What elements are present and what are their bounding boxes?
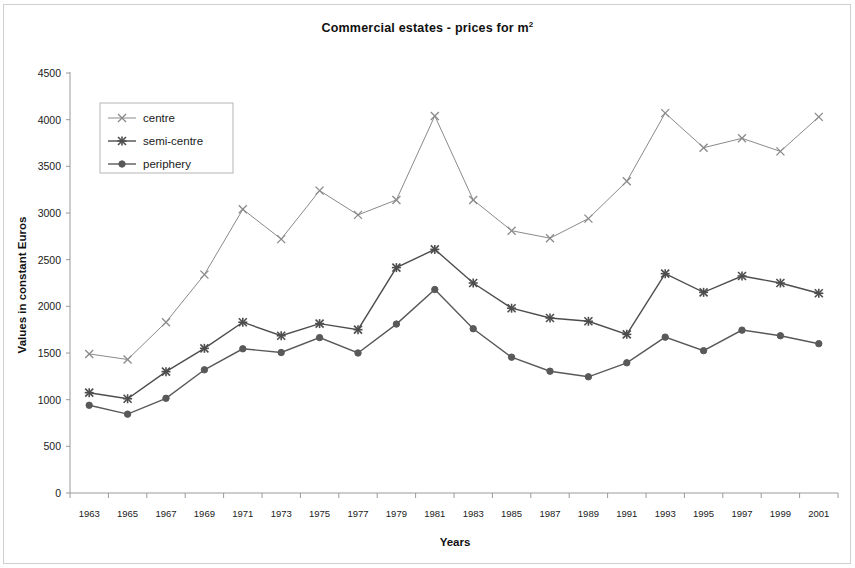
data-point-marker <box>585 374 591 380</box>
x-axis-tick-label: 1967 <box>155 508 176 519</box>
series-line <box>89 249 819 398</box>
y-axis-tick-label: 1000 <box>38 394 62 406</box>
data-point-marker <box>661 269 670 278</box>
data-point-marker <box>622 330 631 339</box>
y-axis-tick-label: 1500 <box>38 347 62 359</box>
data-point-marker <box>547 368 553 374</box>
data-point-marker <box>431 112 439 120</box>
y-axis-tick-label: 4000 <box>38 114 62 126</box>
y-axis-tick-label: 0 <box>55 487 61 499</box>
x-axis-tick-label: 1993 <box>655 508 676 519</box>
data-point-marker <box>738 272 747 281</box>
x-axis-tick-label: 1979 <box>386 508 407 519</box>
chart-legend: centresemi-centreperiphery <box>100 103 233 173</box>
data-point-marker <box>119 161 125 167</box>
data-point-marker <box>814 289 823 298</box>
data-point-marker <box>700 144 708 152</box>
y-axis-tick-label: 2000 <box>38 300 62 312</box>
data-point-marker <box>508 227 516 235</box>
data-point-marker <box>278 349 284 355</box>
y-axis-tick-label: 500 <box>43 440 61 452</box>
data-point-marker <box>738 134 746 142</box>
series-semi-centre <box>85 245 824 403</box>
data-point-marker <box>546 314 555 323</box>
data-point-marker <box>470 326 476 332</box>
data-point-marker <box>584 317 593 326</box>
data-point-marker <box>124 411 130 417</box>
data-point-marker <box>507 304 516 313</box>
data-point-marker <box>392 196 400 204</box>
data-point-marker <box>162 318 170 326</box>
legend-label: periphery <box>143 158 191 170</box>
y-axis-tick-label: 4500 <box>38 67 62 79</box>
x-axis-tick-label: 1995 <box>693 508 714 519</box>
data-point-marker <box>661 109 669 117</box>
legend-label: centre <box>143 112 175 124</box>
x-axis-tick-label: 1973 <box>271 508 292 519</box>
data-point-marker <box>392 263 401 272</box>
data-point-marker <box>85 388 94 397</box>
data-point-marker <box>584 215 592 223</box>
data-point-marker <box>200 344 209 353</box>
y-axis-title: Values in constant Euros <box>16 217 28 354</box>
data-point-marker <box>393 321 399 327</box>
y-axis-tick-label: 3500 <box>38 160 62 172</box>
data-point-marker <box>623 177 631 185</box>
chart-plot-area: 050010001500200025003000350040004500 196… <box>0 0 855 568</box>
data-point-marker <box>118 137 127 146</box>
axis-titles-layer: Values in constant Euros Years <box>16 217 470 548</box>
series-periphery <box>86 286 822 417</box>
data-point-marker <box>355 350 361 356</box>
x-axis-tick-label: 1987 <box>539 508 560 519</box>
data-point-marker <box>700 347 706 353</box>
data-point-marker <box>816 340 822 346</box>
data-point-marker <box>315 319 324 328</box>
data-point-marker <box>776 147 784 155</box>
x-axis-tick-label: 1991 <box>616 508 637 519</box>
data-point-marker <box>739 327 745 333</box>
data-point-marker <box>354 325 363 334</box>
data-point-marker <box>777 333 783 339</box>
data-point-marker <box>163 395 169 401</box>
x-axis-tick-label: 2001 <box>808 508 829 519</box>
x-axis-tick-label: 1999 <box>770 508 791 519</box>
x-axis-tick-label: 1985 <box>501 508 522 519</box>
x-axis-tick-label: 1963 <box>79 508 100 519</box>
x-axis-tick-label: 1971 <box>232 508 253 519</box>
data-point-marker <box>239 205 247 213</box>
data-point-marker <box>86 402 92 408</box>
data-point-marker <box>238 318 247 327</box>
x-axis-tick-label: 1997 <box>731 508 752 519</box>
x-axis-tick-label: 1977 <box>347 508 368 519</box>
legend-item-semi-centre[interactable]: semi-centre <box>108 135 203 147</box>
x-axis-title: Years <box>440 536 471 548</box>
x-axis-tick-label: 1969 <box>194 508 215 519</box>
data-point-marker <box>123 394 132 403</box>
data-point-marker <box>546 234 554 242</box>
data-point-marker <box>662 334 668 340</box>
data-point-marker <box>201 367 207 373</box>
data-point-marker <box>432 286 438 292</box>
data-point-marker <box>469 279 478 288</box>
data-point-marker <box>815 113 823 121</box>
data-point-marker <box>277 235 285 243</box>
data-point-marker <box>430 245 439 254</box>
x-axis-tick-label: 1981 <box>424 508 445 519</box>
data-point-marker <box>240 346 246 352</box>
data-point-marker <box>699 288 708 297</box>
data-point-marker <box>469 196 477 204</box>
x-axis-tick-label: 1975 <box>309 508 330 519</box>
data-point-marker <box>354 211 362 219</box>
data-point-marker <box>776 279 785 288</box>
data-point-marker <box>508 354 514 360</box>
data-point-marker <box>316 187 324 195</box>
x-axis-tick-label: 1983 <box>463 508 484 519</box>
data-point-marker <box>162 367 171 376</box>
x-axis-tick-layer: 1963196519671969197119731975197719791981… <box>70 493 838 519</box>
data-point-marker <box>200 271 208 279</box>
legend-label: semi-centre <box>143 135 203 147</box>
y-axis-tick-label: 3000 <box>38 207 62 219</box>
chart-page: Commercial estates - prices for m2 05001… <box>0 0 855 568</box>
x-axis-tick-label: 1989 <box>578 508 599 519</box>
y-axis-tick-label: 2500 <box>38 254 62 266</box>
